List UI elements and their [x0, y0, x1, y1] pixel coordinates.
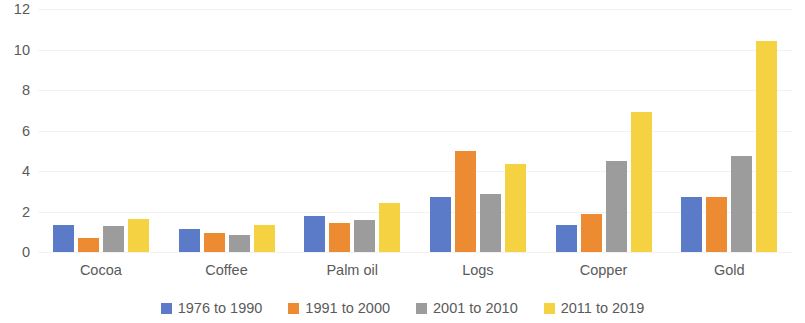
legend-item[interactable]: 1991 to 2000: [288, 301, 390, 316]
bar[interactable]: [379, 203, 400, 252]
bar[interactable]: [430, 197, 451, 252]
y-axis-tick-label: 10: [14, 42, 30, 57]
bar-group: [164, 9, 290, 252]
y-axis-tick-label: 2: [22, 204, 30, 219]
legend: 1976 to 19901991 to 20002001 to 20102011…: [0, 296, 805, 320]
bar[interactable]: [756, 41, 777, 252]
x-axis-tick-label: Logs: [415, 258, 541, 282]
x-axis-tick-label: Cocoa: [38, 258, 164, 282]
bar-chart: 024681012 CocoaCoffeePalm oilLogsCopperG…: [0, 0, 805, 323]
bar-group: [666, 9, 792, 252]
y-axis-tick-label: 4: [22, 164, 30, 179]
legend-label: 2011 to 2019: [561, 301, 645, 316]
bar[interactable]: [556, 225, 577, 252]
gridline: [38, 252, 792, 253]
y-axis-tick-label: 12: [14, 2, 30, 17]
bar[interactable]: [505, 164, 526, 252]
bar-group: [38, 9, 164, 252]
legend-swatch-icon: [161, 303, 172, 314]
bar[interactable]: [354, 220, 375, 252]
bar[interactable]: [581, 214, 602, 252]
y-axis: 024681012: [0, 0, 38, 262]
bar[interactable]: [706, 197, 727, 252]
bar[interactable]: [606, 161, 627, 252]
x-axis-tick-label: Copper: [541, 258, 667, 282]
bar[interactable]: [455, 151, 476, 252]
legend-label: 1991 to 2000: [305, 301, 390, 316]
bar[interactable]: [631, 112, 652, 252]
bar[interactable]: [103, 226, 124, 252]
bar-group: [289, 9, 415, 252]
y-axis-tick-label: 0: [22, 245, 30, 260]
bar[interactable]: [731, 156, 752, 252]
bar[interactable]: [128, 219, 149, 252]
x-axis-tick-label: Coffee: [164, 258, 290, 282]
bar-group: [415, 9, 541, 252]
legend-item[interactable]: 1976 to 1990: [161, 301, 263, 316]
bar[interactable]: [480, 194, 501, 252]
legend-label: 1976 to 1990: [178, 301, 263, 316]
x-axis-tick-label: Palm oil: [289, 258, 415, 282]
legend-item[interactable]: 2011 to 2019: [544, 301, 645, 316]
legend-label: 2001 to 2010: [433, 301, 518, 316]
legend-swatch-icon: [544, 303, 555, 314]
bar[interactable]: [681, 197, 702, 252]
legend-item[interactable]: 2001 to 2010: [416, 301, 518, 316]
x-axis: CocoaCoffeePalm oilLogsCopperGold: [38, 258, 792, 282]
bar[interactable]: [329, 223, 350, 252]
bar-groups: [38, 9, 792, 252]
bar[interactable]: [179, 229, 200, 252]
plot-area: [38, 9, 792, 252]
bar[interactable]: [53, 225, 74, 252]
bar-group: [541, 9, 667, 252]
bar[interactable]: [304, 216, 325, 252]
bar[interactable]: [229, 235, 250, 252]
bar[interactable]: [204, 233, 225, 252]
y-axis-tick-label: 6: [22, 123, 30, 138]
legend-swatch-icon: [416, 303, 427, 314]
legend-swatch-icon: [288, 303, 299, 314]
bar[interactable]: [78, 238, 99, 252]
bar[interactable]: [254, 225, 275, 252]
y-axis-tick-label: 8: [22, 83, 30, 98]
x-axis-tick-label: Gold: [666, 258, 792, 282]
